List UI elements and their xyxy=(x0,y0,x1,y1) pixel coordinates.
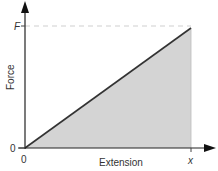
y-axis-label: Force xyxy=(5,64,16,90)
x-end-label: x xyxy=(187,155,194,166)
x-axis-arrow-icon xyxy=(204,144,216,152)
y-origin-label: 0 xyxy=(10,143,16,154)
force-extension-diagram: F 0 0 x Extension Force xyxy=(0,0,218,171)
x-origin-label: 0 xyxy=(21,154,27,165)
y-axis-arrow-icon xyxy=(21,1,29,13)
y-end-label: F xyxy=(14,21,21,32)
x-axis-label: Extension xyxy=(99,157,143,168)
